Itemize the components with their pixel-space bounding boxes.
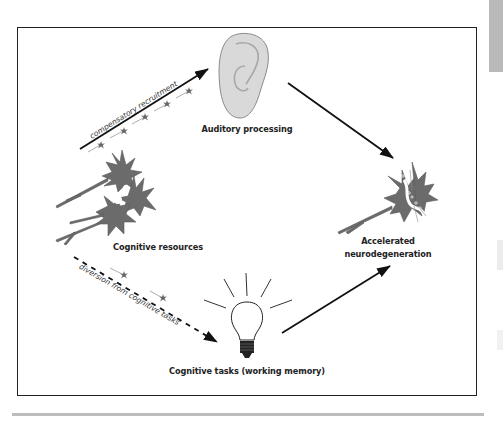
neurodegeneration-label-line2: neurodegeneration (336, 249, 440, 259)
neurons-cluster-icon (56, 150, 156, 245)
edge-tasks-to-neurodegeneration (282, 266, 390, 333)
signal-stars-icon (88, 87, 193, 152)
edge-auditory-to-neurodegeneration (288, 83, 393, 158)
lightbulb-icon (204, 273, 292, 358)
auditory-processing-label: Auditory processing (192, 124, 302, 134)
cognitive-resources-label: Cognitive resources (108, 242, 208, 252)
ear-icon (219, 33, 268, 118)
degenerating-neuron-icon (338, 162, 438, 234)
diagram-canvas (0, 0, 503, 425)
edge-compensatory-recruitment (80, 69, 208, 152)
cognitive-tasks-label: Cognitive tasks (working memory) (162, 366, 332, 376)
neurodegeneration-label-line1: Accelerated (336, 236, 440, 246)
